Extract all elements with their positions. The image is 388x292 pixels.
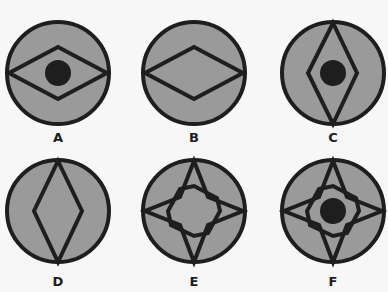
figure-grid: [0, 0, 388, 292]
label-c: C: [313, 130, 353, 145]
circle-b: [143, 22, 245, 124]
figure-d: [7, 160, 109, 262]
label-b: B: [174, 130, 214, 145]
label-e: E: [174, 274, 214, 289]
figure-c: [282, 22, 384, 124]
label-d: D: [38, 274, 78, 289]
figure-f: [282, 160, 384, 262]
figure-a: [7, 22, 109, 124]
figure-e: [143, 160, 245, 262]
label-f: F: [313, 274, 353, 289]
label-a: A: [38, 130, 78, 145]
circle-e: [143, 160, 245, 262]
center-dot-a: [45, 60, 71, 86]
circle-d: [7, 160, 109, 262]
figure-b: [143, 22, 245, 124]
center-dot-c: [320, 60, 346, 86]
center-dot-f: [320, 198, 346, 224]
